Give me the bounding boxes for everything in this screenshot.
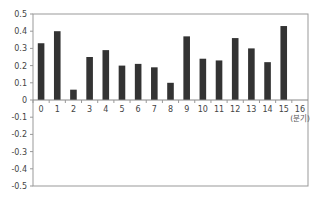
bar-0: [38, 43, 45, 100]
y-tick-label: 0.4: [14, 27, 27, 36]
bar-10: [200, 59, 207, 100]
x-tick-label: 2: [71, 105, 76, 114]
y-tick-label: -0.1: [11, 113, 27, 122]
x-tick-label: 7: [152, 105, 157, 114]
x-axis: 012345678910111213141516: [33, 100, 305, 114]
bar-9: [183, 36, 190, 100]
x-tick-label: 10: [198, 105, 208, 114]
y-tick-label: -0.3: [11, 148, 27, 157]
bar-12: [232, 38, 239, 100]
y-axis: 0.50.40.30.20.10-0.1-0.2-0.3-0.4-0.5: [11, 10, 33, 191]
x-tick-label: 16: [295, 105, 305, 114]
bar-5: [119, 66, 126, 100]
bar-2: [70, 90, 77, 100]
y-tick-label: -0.5: [11, 182, 27, 191]
bar-6: [135, 64, 142, 100]
bar-8: [167, 83, 174, 100]
x-tick-label: 5: [119, 105, 124, 114]
bar-4: [102, 50, 109, 100]
x-tick-label: 8: [168, 105, 173, 114]
x-tick-label: 6: [136, 105, 141, 114]
x-tick-label: 12: [230, 105, 240, 114]
bar-chart: 0.50.40.30.20.10-0.1-0.2-0.3-0.4-0.5 012…: [0, 0, 320, 202]
bar-13: [248, 48, 255, 100]
y-tick-label: -0.4: [11, 165, 27, 174]
bar-3: [86, 57, 93, 100]
x-tick-label: 0: [39, 105, 44, 114]
bar-14: [264, 62, 271, 100]
x-tick-label: 1: [55, 105, 60, 114]
x-tick-label: 3: [87, 105, 92, 114]
x-axis-unit-label: (분기): [290, 114, 310, 123]
bar-15: [280, 26, 287, 100]
x-tick-label: 11: [214, 105, 224, 114]
x-tick-label: 13: [246, 105, 256, 114]
x-tick-label: 9: [184, 105, 189, 114]
y-tick-label: 0.5: [14, 10, 27, 19]
bars: [38, 26, 287, 100]
y-tick-label: 0.3: [14, 44, 27, 53]
x-tick-label: 14: [262, 105, 272, 114]
bar-11: [216, 60, 223, 100]
y-tick-label: 0: [22, 96, 27, 105]
x-tick-label: 4: [103, 105, 108, 114]
y-tick-label: 0.1: [14, 79, 27, 88]
y-tick-label: 0.2: [14, 62, 27, 71]
y-tick-label: -0.2: [11, 130, 27, 139]
bar-7: [151, 67, 158, 100]
bar-1: [54, 31, 61, 100]
x-tick-label: 15: [279, 105, 289, 114]
